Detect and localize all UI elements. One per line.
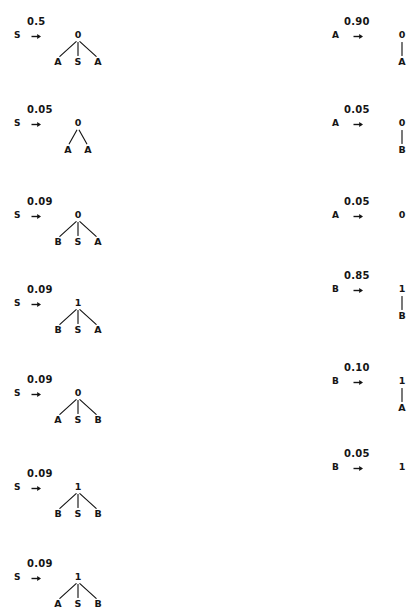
- tree-edge: [80, 584, 96, 599]
- tree-root-label: 1: [75, 481, 82, 492]
- rule-probability: 0.05: [344, 105, 370, 115]
- rule-probability: 0.09: [27, 375, 53, 385]
- production-arrow-icon: [353, 120, 364, 129]
- tree-leaf-label: A: [94, 324, 102, 335]
- derivation-tree: 0BSA: [45, 209, 111, 252]
- derivation-tree: 1: [389, 461, 411, 504]
- tree-leaf-label: A: [54, 414, 62, 425]
- tree-root-label: 0: [399, 209, 406, 220]
- tree-edge: [79, 130, 87, 144]
- tree-leaf-label: S: [75, 414, 82, 425]
- rule-probability: 0.05: [344, 449, 370, 459]
- production-arrow-icon: [353, 212, 364, 221]
- production-arrow-icon: [31, 574, 42, 583]
- rule-probability: 0.05: [344, 197, 370, 207]
- tree-edge: [60, 310, 76, 325]
- derivation-tree: 0ASB: [45, 387, 111, 430]
- tree-leaf-label: S: [75, 508, 82, 519]
- rule-lhs-symbol: S: [14, 389, 21, 398]
- rule-lhs-symbol: S: [14, 31, 21, 40]
- tree-leaf-label: A: [64, 144, 72, 155]
- tree-edge: [60, 222, 76, 237]
- tree-root-label: 1: [399, 375, 406, 386]
- tree-leaf-label: A: [54, 598, 62, 609]
- tree-leaf-label: B: [94, 598, 101, 609]
- tree-edge: [80, 400, 96, 415]
- derivation-tree: 0AA: [55, 117, 101, 160]
- tree-leaf-label: S: [75, 56, 82, 67]
- rule-probability: 0.09: [27, 285, 53, 295]
- tree-edge: [80, 310, 96, 325]
- production-arrow-icon: [31, 300, 42, 309]
- tree-edge: [60, 494, 76, 509]
- derivation-tree: 1A: [389, 375, 411, 418]
- tree-leaf-label: S: [75, 236, 82, 247]
- tree-edge: [60, 42, 76, 57]
- rule-probability: 0.09: [27, 469, 53, 479]
- rule-lhs-symbol: B: [332, 377, 339, 386]
- tree-leaf-label: A: [94, 56, 102, 67]
- tree-leaf-label: B: [94, 508, 101, 519]
- rule-probability: 0.90: [344, 17, 370, 27]
- tree-leaf-label: A: [398, 56, 406, 67]
- rule-lhs-symbol: S: [14, 119, 21, 128]
- rule-lhs-symbol: S: [14, 299, 21, 308]
- rule-probability: 0.5: [27, 17, 46, 27]
- tree-leaf-label: B: [94, 414, 101, 425]
- derivation-tree: 0A: [389, 29, 411, 72]
- rule-probability: 0.09: [27, 559, 53, 569]
- rule-lhs-symbol: B: [332, 463, 339, 472]
- rule-lhs-symbol: A: [332, 211, 339, 220]
- tree-leaf-label: B: [54, 236, 61, 247]
- tree-edge: [60, 584, 76, 599]
- production-arrow-icon: [353, 32, 364, 41]
- tree-root-label: 0: [75, 209, 82, 220]
- rule-lhs-symbol: A: [332, 31, 339, 40]
- tree-edge: [60, 400, 76, 415]
- tree-edge: [80, 494, 96, 509]
- tree-root-label: 1: [399, 461, 406, 472]
- production-arrow-icon: [353, 378, 364, 387]
- tree-leaf-label: B: [398, 310, 405, 321]
- derivation-tree: 0B: [389, 117, 411, 160]
- tree-root-label: 0: [75, 117, 82, 128]
- tree-edge: [80, 222, 96, 237]
- tree-root-label: 1: [75, 297, 82, 308]
- rule-probability: 0.09: [27, 197, 53, 207]
- rule-lhs-symbol: B: [332, 285, 339, 294]
- tree-leaf-label: B: [54, 508, 61, 519]
- tree-leaf-label: A: [398, 402, 406, 413]
- tree-leaf-label: A: [54, 56, 62, 67]
- derivation-tree: 1B: [389, 283, 411, 326]
- tree-leaf-label: B: [54, 324, 61, 335]
- derivation-tree: 0: [389, 209, 411, 252]
- tree-root-label: 1: [75, 571, 82, 582]
- tree-root-label: 0: [75, 29, 82, 40]
- tree-root-label: 0: [75, 387, 82, 398]
- rule-lhs-symbol: S: [14, 483, 21, 492]
- rule-lhs-symbol: S: [14, 573, 21, 582]
- tree-root-label: 0: [399, 29, 406, 40]
- rule-probability: 0.10: [344, 363, 370, 373]
- tree-edge: [69, 130, 77, 144]
- tree-leaf-label: S: [75, 598, 82, 609]
- tree-leaf-label: S: [75, 324, 82, 335]
- tree-leaf-label: A: [84, 144, 92, 155]
- production-arrow-icon: [31, 120, 42, 129]
- production-arrow-icon: [31, 484, 42, 493]
- rule-lhs-symbol: A: [332, 119, 339, 128]
- rule-lhs-symbol: S: [14, 211, 21, 220]
- production-arrow-icon: [353, 464, 364, 473]
- production-arrow-icon: [31, 390, 42, 399]
- tree-root-label: 0: [399, 117, 406, 128]
- tree-edge: [80, 42, 96, 57]
- tree-leaf-label: B: [398, 144, 405, 155]
- rule-probability: 0.85: [344, 271, 370, 281]
- tree-leaf-label: A: [94, 236, 102, 247]
- production-arrow-icon: [31, 32, 42, 41]
- derivation-tree: 1BSB: [45, 481, 111, 524]
- derivation-tree: 1ASB: [45, 571, 111, 614]
- tree-root-label: 1: [399, 283, 406, 294]
- rule-probability: 0.05: [27, 105, 53, 115]
